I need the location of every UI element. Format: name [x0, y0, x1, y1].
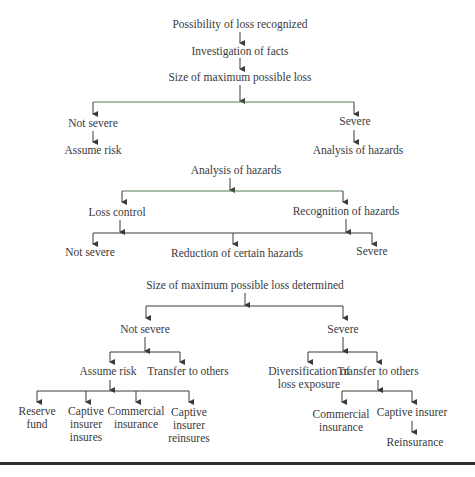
node-size-of-max-loss-determined: Size of maximum possible loss determined [146, 279, 344, 292]
node-not-severe-1: Not severe [68, 117, 118, 130]
node-size-of-max-loss: Size of maximum possible loss [168, 71, 311, 84]
node-analysis-of-hazards-2: Analysis of hazards [191, 164, 282, 177]
node-severe-3: Severe [327, 323, 358, 336]
bottom-rule-divider [0, 462, 475, 465]
leaf-line: Commercial [108, 405, 165, 418]
leaf-captive-insurer-reinsures: Captive insurer reinsures [168, 406, 210, 445]
leaf-line: insurer [168, 419, 210, 432]
leaf-commercial-insurance-2: Commercial insurance [313, 408, 370, 434]
leaf-line: Commercial [313, 408, 370, 421]
node-analysis-of-hazards-1: Analysis of hazards [313, 144, 404, 157]
leaf-line: Captive [168, 406, 210, 419]
node-assume-risk-1: Assume risk [64, 144, 121, 157]
leaf-commercial-insurance-1: Commercial insurance [108, 405, 165, 431]
leaf-captive-insurer: Captive insurer [377, 406, 448, 419]
node-assume-risk-3: Assume risk [79, 365, 136, 378]
node-severe-2: Severe [356, 245, 387, 258]
leaf-line: Captive [68, 405, 104, 418]
node-not-severe-3: Not severe [120, 323, 170, 336]
node-possibility-of-loss: Possibility of loss recognized [172, 18, 307, 31]
leaf-line: Reserve [18, 405, 55, 418]
leaf-reserve-fund: Reserve fund [18, 405, 55, 431]
node-loss-control: Loss control [88, 206, 145, 219]
leaf-captive-insurer-insures: Captive insurer insures [68, 405, 104, 444]
node-recognition-of-hazards: Recognition of hazards [293, 205, 400, 218]
node-transfer-to-others-left: Transfer to others [147, 365, 228, 378]
node-not-severe-2: Not severe [65, 246, 115, 259]
leaf-reinsurance: Reinsurance [387, 436, 444, 449]
diversification-line2: loss exposure [268, 378, 349, 391]
leaf-line: insurance [108, 418, 165, 431]
node-reduction-of-hazards: Reduction of certain hazards [171, 247, 303, 260]
leaf-line: insurance [313, 421, 370, 434]
node-transfer-to-others-right: Transfer to others [337, 365, 418, 378]
risk-management-flowchart: Possibility of loss recognized Investiga… [0, 0, 475, 477]
node-investigation-of-facts: Investigation of facts [191, 45, 288, 58]
leaf-line: reinsures [168, 432, 210, 445]
leaf-line: fund [18, 418, 55, 431]
leaf-line: insures [68, 431, 104, 444]
node-severe-1: Severe [339, 115, 370, 128]
leaf-line: insurer [68, 418, 104, 431]
